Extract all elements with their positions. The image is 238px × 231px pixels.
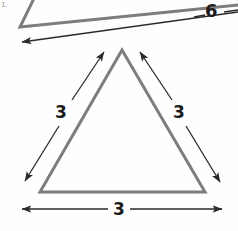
dimension-label-large-side: 6 [205, 2, 218, 20]
dimension-label-base: 3 [113, 201, 125, 218]
dimension-line-left-leg-upper [72, 52, 104, 100]
geometry-diagram-canvas: 1. 3 3 3 6 [0, 0, 238, 231]
dimension-label-right-leg: 3 [173, 104, 185, 121]
dimension-line-right-leg-upper [140, 52, 172, 100]
corner-item-number: 1. [1, 1, 8, 9]
diagram-svg [0, 0, 238, 231]
dimension-label-left-leg: 3 [55, 104, 67, 121]
dimension-line-left-leg-lower [25, 126, 59, 181]
dimension-line-right-leg-lower [186, 126, 220, 182]
